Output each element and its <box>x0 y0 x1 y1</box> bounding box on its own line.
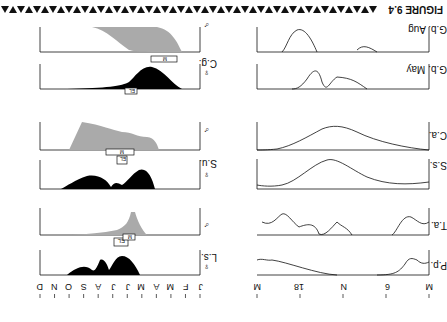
month-tick-label: F <box>182 282 188 292</box>
month-tick-label: J <box>199 282 204 292</box>
svg-text:M: M <box>163 56 167 62</box>
month-axis: JFMAMJJASOND <box>36 282 203 298</box>
ls-male-area <box>72 212 147 235</box>
figure: FIGURE 9.4 JFMAMJJASOND M6N18M L.s. ♀ ♂ … <box>0 0 447 322</box>
hour-tick-label: 18 <box>294 282 304 292</box>
svg-text:♀: ♀ <box>203 170 210 180</box>
svg-text:C.g.: C.g. <box>199 58 217 69</box>
month-tick-label: S <box>81 282 87 292</box>
svg-text:S.s.: S.s. <box>430 160 447 171</box>
svg-text:EL: EL <box>129 88 135 94</box>
svg-text:G.b. May: G.b. May <box>406 64 447 75</box>
hour-axis: M6N18M <box>254 282 434 298</box>
row-label-ls: L.s. <box>201 252 217 263</box>
male-symbol: ♂ <box>203 220 210 230</box>
figure-label: FIGURE 9.4 <box>388 4 443 15</box>
daily-panels: P.p. T.a. S.s. C.a. G.b. May G.b. Aug <box>257 24 447 275</box>
annual-panels: L.s. ♀ ♂ EL M S.u. ♀ ♂ M EL C.g. ♀ ♂ <box>40 20 217 275</box>
title-band: FIGURE 9.4 <box>1 4 443 15</box>
svg-text:P.p.: P.p. <box>431 260 447 271</box>
svg-text:M: M <box>120 149 124 155</box>
female-symbol: ♀ <box>203 262 210 272</box>
hour-tick-label: M <box>426 282 434 292</box>
month-tick-label: A <box>153 282 159 292</box>
svg-text:EL: EL <box>120 156 126 162</box>
month-tick-label: A <box>95 282 101 292</box>
svg-text:♀: ♀ <box>203 68 210 78</box>
month-tick-label: O <box>65 282 72 292</box>
ls-female-area <box>67 256 140 275</box>
svg-text:T.a.: T.a. <box>431 220 447 231</box>
month-tick-label: M <box>137 282 145 292</box>
hour-tick-label: N <box>341 282 348 292</box>
svg-text:C.a.: C.a. <box>429 130 447 141</box>
svg-text:G.b. Aug: G.b. Aug <box>408 24 447 35</box>
hour-tick-label: M <box>254 282 262 292</box>
hour-tick-label: 6 <box>385 282 390 292</box>
svg-text:S.u.: S.u. <box>199 158 217 169</box>
month-tick-label: N <box>51 282 58 292</box>
month-tick-label: D <box>36 282 43 292</box>
svg-text:♂: ♂ <box>203 125 210 135</box>
svg-text:M: M <box>128 234 132 240</box>
month-tick-label: M <box>166 282 174 292</box>
month-tick-label: J <box>111 282 116 292</box>
svg-text:♂: ♂ <box>203 20 210 30</box>
month-tick-label: J <box>126 282 131 292</box>
